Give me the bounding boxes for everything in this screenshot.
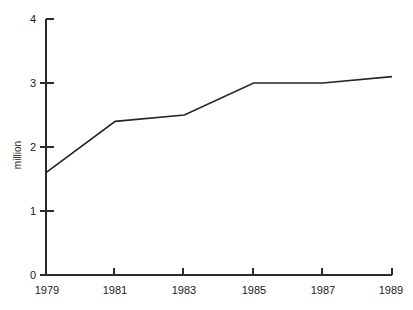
chart-canvas: 4 3 2 1 0 1979 1981 1983 1985 1987 1989 … [0,0,413,310]
x-tick-label-1987: 1987 [311,284,335,296]
x-tick-label-1983: 1983 [172,284,196,296]
y-tick-label-3: 3 [30,77,36,89]
x-tick-label-1989: 1989 [379,284,403,296]
chart-background [0,0,413,310]
y-tick-label-2: 2 [30,141,36,153]
y-axis-title: million [12,141,23,169]
x-tick-label-1979: 1979 [35,284,59,296]
x-tick-label-1981: 1981 [103,284,127,296]
x-tick-label-1985: 1985 [242,284,266,296]
y-tick-label-1: 1 [30,205,36,217]
y-tick-label-4: 4 [30,13,36,25]
y-tick-label-0: 0 [30,269,36,281]
line-chart-figure: 4 3 2 1 0 1979 1981 1983 1985 1987 1989 … [0,0,413,310]
